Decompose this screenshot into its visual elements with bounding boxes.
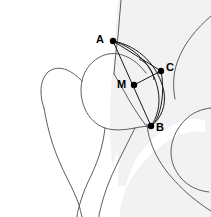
- point-label-A: A: [96, 34, 104, 45]
- point-marker-C: [158, 68, 164, 74]
- point-marker-A: [110, 38, 116, 44]
- greater-trochanter-outline: [41, 68, 82, 108]
- hip-geometry-diagram: A C M B: [0, 0, 211, 217]
- point-marker-B: [148, 123, 154, 129]
- femur-shaft-lateral-outline: [44, 108, 82, 217]
- point-label-M: M: [117, 79, 126, 90]
- femur-shaft-medial-outline: [77, 128, 105, 217]
- hip-diagram-svg: [0, 0, 211, 217]
- point-label-B: B: [156, 122, 164, 133]
- point-marker-M: [131, 82, 137, 88]
- point-label-C: C: [166, 62, 174, 73]
